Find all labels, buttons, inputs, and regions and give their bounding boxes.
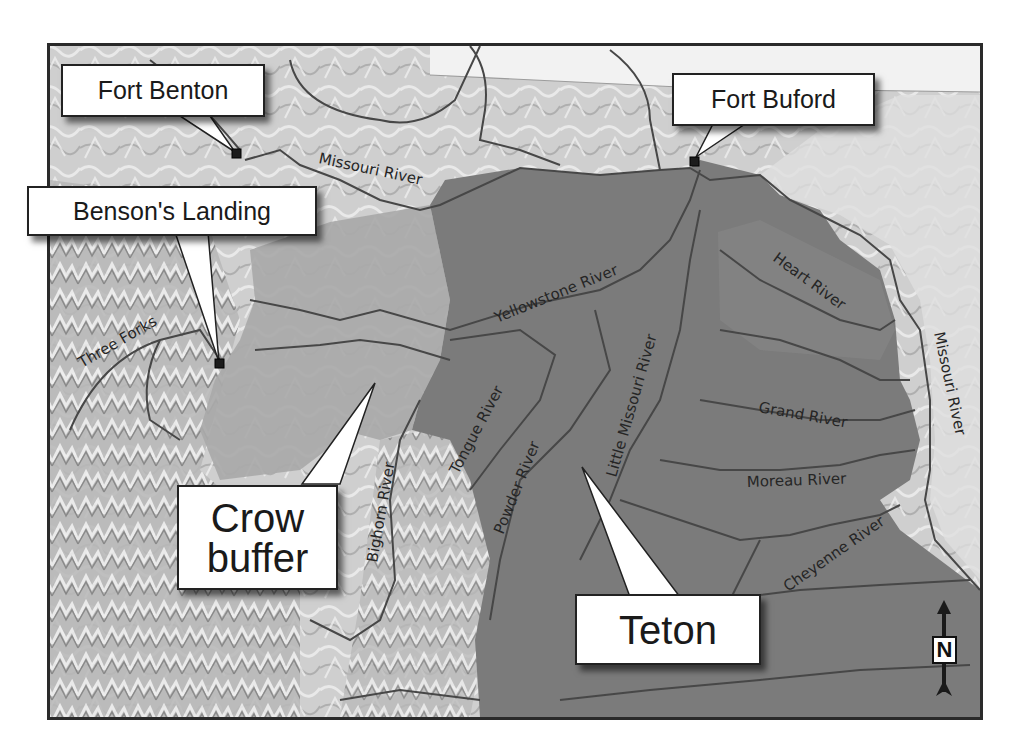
callout-crow-buffer-line1: Crow [211,498,304,538]
callout-bensons-landing-text: Benson's Landing [73,197,271,226]
callout-fort-buford: Fort Buford [672,73,875,126]
callout-fort-benton: Fort Benton [61,64,265,117]
map-canvas: Missouri River Three Forks Yellowstone R… [50,46,980,717]
callout-teton: Teton [575,594,761,665]
fort-benton-marker [232,149,241,158]
callout-fort-benton-text: Fort Benton [98,76,229,105]
callout-crow-buffer-line2: buffer [207,538,309,578]
north-label: N [937,637,953,663]
bensons-landing-marker [215,359,224,368]
label-moreau-river: Moreau River [747,470,848,491]
map-frame: Missouri River Three Forks Yellowstone R… [47,43,983,720]
callout-teton-text: Teton [619,610,717,650]
fort-buford-marker [690,157,699,166]
north-indicator: N [932,636,957,664]
callout-crow-buffer: Crow buffer [177,485,338,590]
callout-fort-buford-text: Fort Buford [711,85,836,114]
callout-bensons-landing: Benson's Landing [27,186,317,236]
